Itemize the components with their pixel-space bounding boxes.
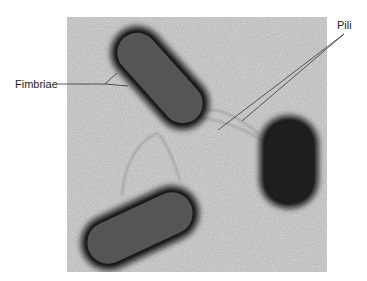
micrograph-figure: Fimbriae Pili [0,0,367,281]
bacterium-right [260,116,318,208]
cell-body [265,121,313,203]
fimbriae-label: Fimbriae [15,78,58,90]
micrograph-photo [67,16,327,279]
pili-label: Pili [337,19,352,31]
